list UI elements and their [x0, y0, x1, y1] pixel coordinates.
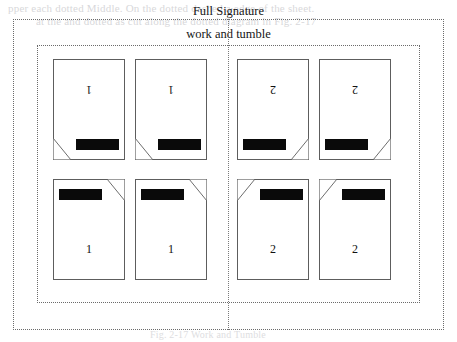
content-bar — [325, 139, 368, 150]
content-bar — [76, 139, 119, 150]
page-2-bottom-right-2[interactable]: 2 — [319, 179, 391, 280]
folded-corner-icon — [373, 138, 391, 160]
folded-corner-icon — [237, 179, 255, 201]
folded-corner-icon — [319, 179, 337, 201]
folded-corner-icon — [291, 138, 309, 160]
content-bar — [243, 139, 286, 150]
page-1-bottom-left-2[interactable]: 1 — [135, 179, 207, 280]
content-bar — [260, 189, 303, 200]
folded-corner-icon — [107, 179, 125, 201]
ghost-text-caption: Fig. 2-17 Work and Tumble — [150, 329, 266, 340]
content-bar — [342, 189, 385, 200]
page-number-label: 1 — [54, 84, 124, 96]
page-1-bottom-left[interactable]: 1 — [53, 179, 125, 280]
folded-corner-icon — [189, 179, 207, 201]
content-bar — [141, 189, 184, 200]
page-number-label: 1 — [136, 243, 206, 255]
folded-corner-icon — [135, 138, 153, 160]
folded-corner-icon — [53, 138, 71, 160]
page-1-top-left-2[interactable]: 1 — [135, 59, 207, 160]
content-bar — [59, 189, 102, 200]
page-number-label: 1 — [136, 84, 206, 96]
page-number-label: 1 — [54, 243, 124, 255]
page-number-label: 2 — [320, 243, 390, 255]
page-2-top-right-2[interactable]: 2 — [319, 59, 391, 160]
page-grid: 1 1 2 — [37, 45, 420, 303]
page-2-bottom-right[interactable]: 2 — [237, 179, 309, 280]
page-number-label: 2 — [320, 84, 390, 96]
page-2-top-right[interactable]: 2 — [237, 59, 309, 160]
page-1-top-left[interactable]: 1 — [53, 59, 125, 160]
content-bar — [158, 139, 201, 150]
page-number-label: 2 — [238, 243, 308, 255]
page-number-label: 2 — [238, 84, 308, 96]
sheet-title: Full Signature — [0, 4, 457, 19]
